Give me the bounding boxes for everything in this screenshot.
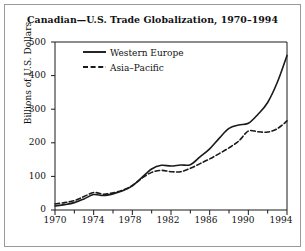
- data-line-asia-pacific: [55, 121, 287, 204]
- plot-area: [0, 0, 305, 251]
- x-axis-ticks: [55, 210, 287, 215]
- chart-figure: Canadian—U.S. Trade Globalization, 1970–…: [0, 0, 305, 251]
- legend-swatches: [83, 52, 106, 67]
- axis-lines: [55, 42, 287, 210]
- y-axis-ticks: [51, 42, 55, 210]
